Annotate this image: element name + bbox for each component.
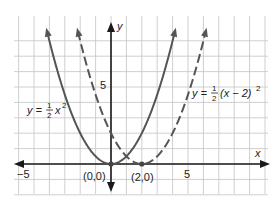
tick-label-x-neg5: −5 (17, 168, 30, 180)
y-axis-down-arrow-icon (107, 182, 115, 192)
tick-label-y-5: 5 (100, 79, 106, 91)
eq2-body: (x − 2) (220, 87, 252, 99)
x-axis-label: x (254, 147, 261, 159)
eq2-exponent: 2 (256, 84, 261, 93)
eq2-denominator: 2 (212, 94, 217, 103)
y-axis-up-arrow-icon (107, 22, 115, 32)
equation-label-1: y = 1 2 x 2 (26, 101, 67, 120)
tick-label-x-5: 5 (184, 168, 190, 180)
eq2-prefix: y = (191, 87, 208, 99)
vertex-point-origin (108, 161, 113, 166)
point-label-2-0: (2,0) (131, 171, 154, 183)
vertex-point-2-0 (139, 161, 144, 166)
eq1-numerator: 1 (47, 101, 52, 110)
grid (14, 16, 268, 195)
eq1-variable: x (54, 104, 61, 116)
eq1-prefix: y = (26, 104, 43, 116)
parabola-graph: x y −5 5 5 (0,0) (2,0) y = 1 2 x 2 y = 1… (0, 0, 280, 209)
eq1-denominator: 2 (47, 111, 52, 120)
eq1-exponent: 2 (62, 101, 67, 110)
equation-label-2: y = 1 2 (x − 2) 2 (191, 84, 261, 103)
curve-arrow-icon (201, 28, 208, 38)
point-label-origin: (0,0) (83, 170, 106, 182)
curve-arrow-icon (45, 28, 52, 38)
curve-arrow-icon (76, 28, 83, 38)
eq2-numerator: 1 (212, 84, 217, 93)
curve-arrow-icon (170, 28, 177, 38)
y-axis-label: y (116, 20, 124, 32)
